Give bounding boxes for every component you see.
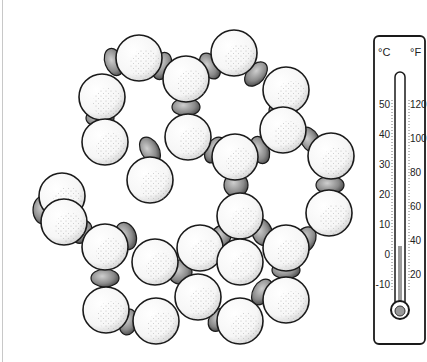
figure-canvas: °C °F 50403020100-10 12010080604020	[0, 0, 427, 362]
celsius-tick-label: 20	[379, 189, 391, 200]
oxygen-atom	[263, 225, 309, 271]
oxygen-atom	[211, 30, 257, 76]
celsius-label: °C	[378, 46, 390, 58]
oxygen-atom	[217, 298, 263, 344]
celsius-tick-label: -10	[376, 279, 391, 290]
fahrenheit-tick-label: 120	[410, 99, 427, 110]
fahrenheit-tick-label: 60	[410, 201, 422, 212]
celsius-tick-label: 0	[384, 249, 390, 260]
celsius-tick-label: 50	[379, 99, 391, 110]
oxygen-atom	[308, 133, 354, 179]
celsius-tick-label: 40	[379, 129, 391, 140]
celsius-tick-label: 30	[379, 159, 391, 170]
hydrogen-atom	[91, 269, 119, 287]
oxygen-atom	[177, 225, 223, 271]
fahrenheit-tick-label: 80	[410, 167, 422, 178]
fahrenheit-tick-label: 40	[410, 235, 422, 246]
oxygen-atom	[82, 119, 128, 165]
oxygen-atom	[127, 157, 173, 203]
ice-lattice	[33, 30, 354, 344]
oxygen-atom	[79, 74, 125, 120]
oxygen-atom	[217, 193, 263, 239]
oxygen-atom	[41, 199, 87, 245]
fahrenheit-tick-label: 100	[410, 133, 427, 144]
thermometer-bulb	[395, 306, 405, 316]
fahrenheit-label: °F	[410, 46, 421, 58]
oxygen-atom	[82, 224, 128, 270]
oxygen-atoms	[39, 30, 354, 344]
oxygen-atom	[133, 298, 179, 344]
fahrenheit-tick-label: 20	[410, 269, 422, 280]
oxygen-atom	[175, 274, 221, 320]
oxygen-atom	[163, 56, 209, 102]
oxygen-atom	[260, 107, 306, 153]
celsius-tick-label: 10	[379, 219, 391, 230]
oxygen-atom	[263, 277, 309, 323]
oxygen-atom	[306, 190, 352, 236]
thermometer: °C °F 50403020100-10 12010080604020	[374, 36, 427, 344]
oxygen-atom	[263, 67, 309, 113]
oxygen-atom	[83, 287, 129, 333]
oxygen-atom	[132, 239, 178, 285]
oxygen-atom	[116, 35, 162, 81]
oxygen-atom	[212, 134, 258, 180]
oxygen-atom	[165, 114, 211, 160]
oxygen-atom	[217, 239, 263, 285]
